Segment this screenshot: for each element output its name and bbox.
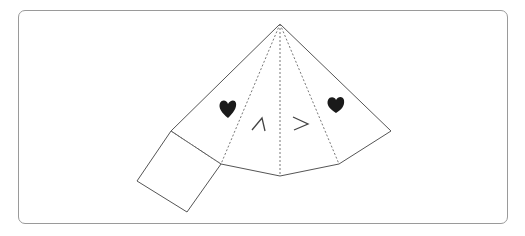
cut-lines bbox=[137, 24, 391, 212]
pyramid-net bbox=[0, 0, 525, 236]
fold-lines bbox=[171, 24, 339, 176]
right-eye-chevron bbox=[293, 117, 308, 130]
heart-icon-left bbox=[219, 100, 236, 118]
heart-icon-right bbox=[327, 97, 344, 113]
left-eye-caret bbox=[252, 118, 265, 131]
